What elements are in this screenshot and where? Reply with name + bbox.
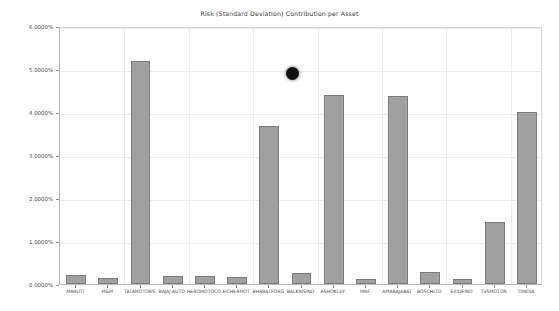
x-axis-tick-label: TVSMOTOR	[481, 289, 507, 295]
y-axis-tick-mark	[56, 156, 59, 157]
bar	[517, 112, 537, 284]
x-axis-tick-mark	[494, 285, 495, 288]
x-axis-tick-mark	[462, 285, 463, 288]
cursor-dot-icon	[286, 67, 299, 80]
x-axis-tick-label: ASHOKLEY	[320, 289, 344, 295]
y-axis-tick-mark	[56, 285, 59, 286]
bar	[98, 278, 118, 284]
x-axis-tick-mark	[140, 285, 141, 288]
bar	[259, 126, 279, 284]
y-axis-tick-label: 1.0000%	[29, 239, 53, 245]
y-axis-tick-mark	[56, 113, 59, 114]
bar	[163, 276, 183, 284]
chart-figure: Risk (Standard Deviation) Contribution p…	[0, 0, 559, 311]
x-axis-tick-mark	[268, 285, 269, 288]
x-axis-tick-label: BOSCHLTD	[417, 289, 442, 295]
x-axis-tick-label: TATAMOTORS	[124, 289, 155, 295]
y-axis-tick-label: 2.0000%	[29, 196, 53, 202]
y-axis-tick-mark	[56, 27, 59, 28]
bar	[420, 272, 440, 284]
x-axis-tick-mark	[429, 285, 430, 288]
x-axis-tick-mark	[397, 285, 398, 288]
x-axis-tick-mark	[75, 285, 76, 288]
bar	[66, 275, 86, 284]
bar	[356, 279, 376, 284]
bar	[131, 61, 151, 284]
x-axis-tick-label: M&M	[102, 289, 114, 295]
x-axis-tick-mark	[365, 285, 366, 288]
x-axis-tick-mark	[236, 285, 237, 288]
x-axis-tick-mark	[333, 285, 334, 288]
y-axis-tick-mark	[56, 199, 59, 200]
x-axis-tick-label: BAJAJ-AUTO	[158, 289, 184, 295]
x-axis-tick-label: BALKRISIND	[287, 289, 315, 295]
x-axis-tick-labels: MARUTIM&MTATAMOTORSBAJAJ-AUTOHEROMOTOCOE…	[59, 289, 542, 301]
x-axis-tick-mark	[107, 285, 108, 288]
bar	[324, 95, 344, 284]
x-axis-tick-mark	[172, 285, 173, 288]
y-axis-tick-labels: 6.0000%5.0000%4.0000%3.0000%2.0000%1.000…	[0, 27, 53, 285]
bar	[453, 279, 473, 284]
x-axis-tick-mark	[204, 285, 205, 288]
y-axis-tick-mark	[56, 242, 59, 243]
x-axis-tick-label: MRF	[360, 289, 370, 295]
x-axis-tick-mark	[301, 285, 302, 288]
x-axis-tick-label: EICHERMOT	[222, 289, 249, 295]
x-axis-tick-label: AMARAJABAT	[382, 289, 412, 295]
bar	[485, 222, 505, 284]
x-axis-tick-label: EXIDEIND	[450, 289, 472, 295]
y-axis-tick-label: 5.0000%	[29, 67, 53, 73]
x-axis-tick-label: BHARATFORG	[253, 289, 284, 295]
bar	[227, 277, 247, 284]
y-axis-tick-label: 3.0000%	[29, 153, 53, 159]
bar	[292, 273, 312, 284]
y-axis-tick-mark	[56, 70, 59, 71]
x-axis-tick-label: HEROMOTOCO	[187, 289, 221, 295]
x-axis-tick-label: MARUTI	[66, 289, 84, 295]
y-axis-tick-label: 6.0000%	[29, 24, 53, 30]
y-axis-tick-label: 4.0000%	[29, 110, 53, 116]
x-axis-tick-label: TIINDIA	[517, 289, 534, 295]
x-axis-tick-mark	[526, 285, 527, 288]
y-axis-tick-label: 0.0000%	[29, 282, 53, 288]
chart-title: Risk (Standard Deviation) Contribution p…	[0, 10, 559, 17]
plot-area	[59, 27, 542, 285]
bar	[388, 96, 408, 284]
bar-series	[60, 28, 541, 284]
bar	[195, 276, 215, 284]
